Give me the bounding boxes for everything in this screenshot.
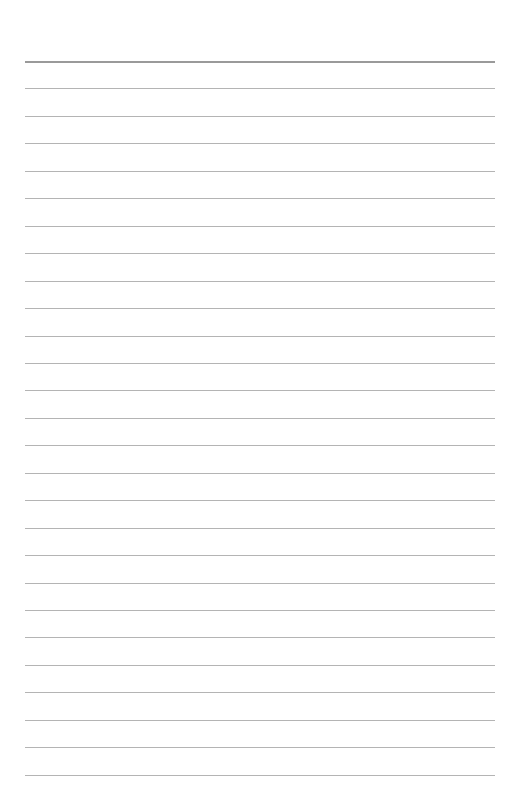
rule-line — [25, 198, 495, 199]
rule-line — [25, 583, 495, 584]
rule-line — [25, 253, 495, 254]
rule-line — [25, 308, 495, 309]
rule-line — [25, 418, 495, 419]
rule-line — [25, 528, 495, 529]
rule-line — [25, 336, 495, 337]
rule-line — [25, 500, 495, 501]
rule-line — [25, 445, 495, 446]
rule-line — [25, 473, 495, 474]
header-rule-line — [25, 61, 495, 63]
rule-line — [25, 281, 495, 282]
rule-line — [25, 116, 495, 117]
rule-line — [25, 226, 495, 227]
rule-line — [25, 143, 495, 144]
rule-line — [25, 692, 495, 693]
rule-line — [25, 88, 495, 89]
rule-line — [25, 610, 495, 611]
lined-paper-page — [0, 0, 518, 809]
rule-line — [25, 775, 495, 776]
rule-line — [25, 747, 495, 748]
rule-line — [25, 720, 495, 721]
rule-line — [25, 637, 495, 638]
rule-line — [25, 555, 495, 556]
rule-line — [25, 665, 495, 666]
rule-line — [25, 363, 495, 364]
rule-line — [25, 171, 495, 172]
rule-line — [25, 390, 495, 391]
